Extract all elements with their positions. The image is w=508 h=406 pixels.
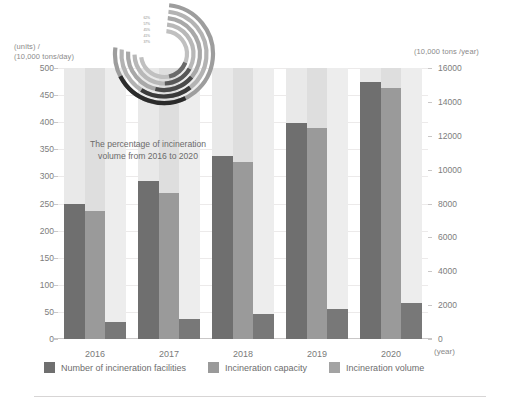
- legend-label: Incineration volume: [346, 363, 424, 373]
- bar-group-2016: 2016: [64, 68, 126, 339]
- y-axis-left-tick: 350: [40, 145, 54, 153]
- bar-volume-2017[interactable]: [179, 319, 200, 339]
- bar-group-2020: 2020: [360, 68, 422, 339]
- spiral-label-0: 62%: [134, 16, 150, 21]
- y-axis-left-tick: 500: [40, 64, 54, 72]
- y-axis-left-tick: 400: [40, 118, 54, 126]
- spiral-label-3: 41%: [134, 34, 150, 39]
- bar-background-band: [401, 68, 422, 339]
- bar-capacity-2020[interactable]: [381, 88, 402, 339]
- chart-canvas: (units) /(10,000 tons/day) (10,000 tons …: [0, 0, 508, 406]
- y-axis-right-tick: 0: [438, 335, 443, 343]
- y-axis-left-tickmark: [54, 258, 58, 259]
- bar-group-2017: 2017: [138, 68, 200, 339]
- spiral-label-2: 45%: [134, 28, 150, 33]
- y-axis-left-tickmark: [54, 149, 58, 150]
- bar-group-2018: 2018: [212, 68, 274, 339]
- bar-capacity-2017[interactable]: [159, 193, 180, 339]
- bar-facilities-2019[interactable]: [286, 123, 307, 339]
- bar-facilities-2018[interactable]: [212, 156, 233, 339]
- y-axis-left-tick: 200: [40, 227, 54, 235]
- y-axis-left-tick: 100: [40, 281, 54, 289]
- x-axis-label-2018: 2018: [212, 349, 274, 359]
- y-axis-right-tickmark: [428, 170, 432, 171]
- bar-capacity-2018[interactable]: [233, 162, 254, 339]
- bar-volume-2016[interactable]: [105, 322, 126, 339]
- bar-background-band: [105, 68, 126, 339]
- legend-item-1[interactable]: Incineration capacity: [208, 362, 307, 373]
- y-axis-right-tickmark: [428, 136, 432, 137]
- bar-capacity-2019[interactable]: [307, 128, 328, 339]
- y-axis-right-tickmark: [428, 237, 432, 238]
- y-axis-left-tick: 150: [40, 254, 54, 262]
- legend-item-0[interactable]: Number of incineration facilities: [44, 362, 186, 373]
- legend-label: Number of incineration facilities: [61, 363, 186, 373]
- spiral-label-4: 37%: [134, 40, 150, 45]
- y-axis-left-tick: 50: [45, 308, 54, 316]
- y-axis-left-tickmark: [54, 95, 58, 96]
- y-axis-right-tick: 10000: [438, 166, 462, 174]
- x-axis-label-2020: 2020: [360, 349, 422, 359]
- y-axis-left-tickmark: [54, 204, 58, 205]
- spiral-decoration-icon: 62% 57% 45% 41% 37%: [112, 2, 216, 106]
- plot-area: 5004504003503002502001501005001600014000…: [58, 68, 428, 339]
- y-axis-right-tickmark: [428, 204, 432, 205]
- left-axis-caption: (units) /(10,000 tons/day): [14, 42, 74, 62]
- footer-divider: [34, 396, 486, 397]
- y-axis-left-tick: 250: [40, 200, 54, 208]
- legend-swatch-icon: [44, 362, 55, 373]
- chart-legend: Number of incineration facilitiesInciner…: [44, 362, 424, 373]
- y-axis-left-tick: 450: [40, 91, 54, 99]
- bar-facilities-2016[interactable]: [64, 204, 85, 340]
- y-axis-right-tick: 2000: [438, 301, 457, 309]
- x-axis-unit-label: (year): [434, 347, 455, 356]
- bar-background-band: [327, 68, 348, 339]
- y-axis-right-tickmark: [428, 68, 432, 69]
- y-axis-right-tickmark: [428, 102, 432, 103]
- bar-volume-2019[interactable]: [327, 309, 348, 339]
- bar-capacity-2016[interactable]: [85, 211, 106, 339]
- y-axis-left-tickmark: [54, 68, 58, 69]
- y-axis-left-tickmark: [54, 312, 58, 313]
- legend-label: Incineration capacity: [225, 363, 307, 373]
- y-axis-left-tickmark: [54, 339, 58, 340]
- bar-background-band: [179, 68, 200, 339]
- y-axis-right-tick: 14000: [438, 98, 462, 106]
- y-axis-right-tick: 8000: [438, 200, 457, 208]
- spiral-label-1: 57%: [134, 22, 150, 27]
- y-axis-left-tickmark: [54, 285, 58, 286]
- left-axis-caption-line2: (10,000 tons/day): [14, 52, 74, 61]
- y-axis-left-tickmark: [54, 231, 58, 232]
- y-axis-right-tick: 4000: [438, 267, 457, 275]
- bar-facilities-2017[interactable]: [138, 181, 159, 339]
- bar-volume-2020[interactable]: [401, 303, 422, 339]
- y-axis-left-tick: 300: [40, 172, 54, 180]
- y-axis-right-tick: 6000: [438, 233, 457, 241]
- legend-item-2[interactable]: Incineration volume: [329, 362, 424, 373]
- right-axis-caption: (10,000 tons /year): [414, 47, 479, 57]
- bar-group-2019: 2019: [286, 68, 348, 339]
- y-axis-left-tickmark: [54, 176, 58, 177]
- bar-volume-2018[interactable]: [253, 314, 274, 339]
- legend-swatch-icon: [208, 362, 219, 373]
- y-axis-left-tickmark: [54, 122, 58, 123]
- bar-background-band: [253, 68, 274, 339]
- y-axis-right-tick: 16000: [438, 64, 462, 72]
- chart-annotation-text: The percentage of incineration volume fr…: [84, 139, 212, 162]
- legend-swatch-icon: [329, 362, 340, 373]
- x-axis-label-2019: 2019: [286, 349, 348, 359]
- y-axis-right-tickmark: [428, 339, 432, 340]
- y-axis-right-tick: 12000: [438, 132, 462, 140]
- left-axis-caption-line1: (units) /: [14, 42, 40, 51]
- y-axis-right-tickmark: [428, 305, 432, 306]
- x-axis-label-2017: 2017: [138, 349, 200, 359]
- y-axis-right-tickmark: [428, 271, 432, 272]
- x-axis-label-2016: 2016: [64, 349, 126, 359]
- bar-facilities-2020[interactable]: [360, 82, 381, 339]
